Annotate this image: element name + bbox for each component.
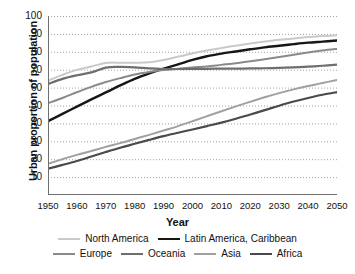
legend-swatch xyxy=(53,253,75,255)
legend-label: Oceania xyxy=(148,248,185,259)
x-tick-label: 2020 xyxy=(233,201,267,211)
x-tick-label: 1970 xyxy=(89,201,123,211)
x-tick-label: 2050 xyxy=(320,201,354,211)
x-tick-label: 1990 xyxy=(147,201,181,211)
series-lines xyxy=(48,35,337,168)
legend-label: North America xyxy=(85,233,148,244)
plot-area xyxy=(48,16,337,195)
legend-item[interactable]: Oceania xyxy=(121,248,185,259)
gridlines xyxy=(48,17,337,178)
legend-swatch xyxy=(121,253,143,255)
legend-row-1: North AmericaLatin America, Caribbean xyxy=(0,231,355,246)
legend-label: Africa xyxy=(277,248,303,259)
legend-label: Asia xyxy=(221,248,240,259)
legend-item[interactable]: Africa xyxy=(250,248,303,259)
axis-frame xyxy=(48,16,337,195)
series-line xyxy=(48,49,337,103)
x-axis-title: Year xyxy=(0,216,355,228)
x-tick-label: 2000 xyxy=(176,201,210,211)
legend-item[interactable]: Europe xyxy=(53,248,112,259)
x-tick-label: 1980 xyxy=(118,201,152,211)
legend-swatch xyxy=(58,238,80,240)
chart-figure: Urban proportion of population 102030405… xyxy=(0,0,355,274)
series-line xyxy=(48,35,337,80)
legend-row-2: EuropeOceaniaAsiaAfrica xyxy=(0,246,355,261)
legend-item[interactable]: Asia xyxy=(194,248,240,259)
legend-label: Latin America, Caribbean xyxy=(185,233,297,244)
x-tick-label: 2010 xyxy=(204,201,238,211)
legend-label: Europe xyxy=(80,248,112,259)
legend-swatch xyxy=(158,238,180,240)
x-tick-label: 1960 xyxy=(60,201,94,211)
y-axis-title: Urban proportion of population xyxy=(27,6,39,196)
chart-svg xyxy=(48,16,337,195)
chart-legend: North AmericaLatin America, Caribbean Eu… xyxy=(0,231,355,261)
x-tick-label: 2040 xyxy=(291,201,325,211)
legend-swatch xyxy=(194,253,216,255)
legend-swatch xyxy=(250,253,272,255)
x-tick-label: 1950 xyxy=(31,201,65,211)
legend-item[interactable]: Latin America, Caribbean xyxy=(158,233,297,244)
legend-item[interactable]: North America xyxy=(58,233,148,244)
series-line xyxy=(48,80,337,164)
x-tick-label: 2030 xyxy=(262,201,296,211)
series-line xyxy=(48,92,337,169)
